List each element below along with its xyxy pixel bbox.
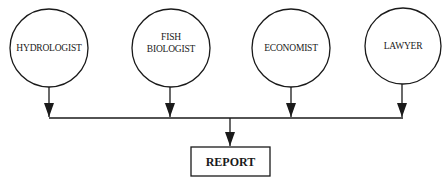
node-label: LAWYER: [384, 41, 424, 51]
connector-economist: [286, 87, 296, 117]
arrow-down-icon: [225, 132, 235, 146]
arrow-down-icon: [397, 103, 407, 117]
node-label: HYDROLOGIST: [16, 43, 82, 53]
node-fish-biologist: FISH BIOLOGIST: [132, 9, 210, 87]
arrow-down-icon: [165, 103, 175, 117]
connector-lawyer: [397, 84, 407, 117]
flow-diagram: HYDROLOGIST FISH BIOLOGIST ECONOMIST LAW…: [0, 0, 448, 184]
arrow-down-icon: [286, 103, 296, 117]
arrow-down-icon: [44, 103, 54, 117]
report-label: REPORT: [206, 155, 256, 169]
node-economist: ECONOMIST: [252, 9, 330, 87]
node-label-line-2: BIOLOGIST: [147, 44, 196, 54]
connector-fish-biologist: [165, 87, 175, 117]
connector-report: [225, 118, 235, 146]
connector-hydrologist: [44, 87, 54, 117]
node-label-line-1: FISH: [161, 32, 181, 42]
node-hydrologist: HYDROLOGIST: [10, 9, 88, 87]
node-label: ECONOMIST: [264, 43, 318, 53]
report-box: REPORT: [191, 147, 270, 176]
node-lawyer: LAWYER: [365, 8, 441, 84]
